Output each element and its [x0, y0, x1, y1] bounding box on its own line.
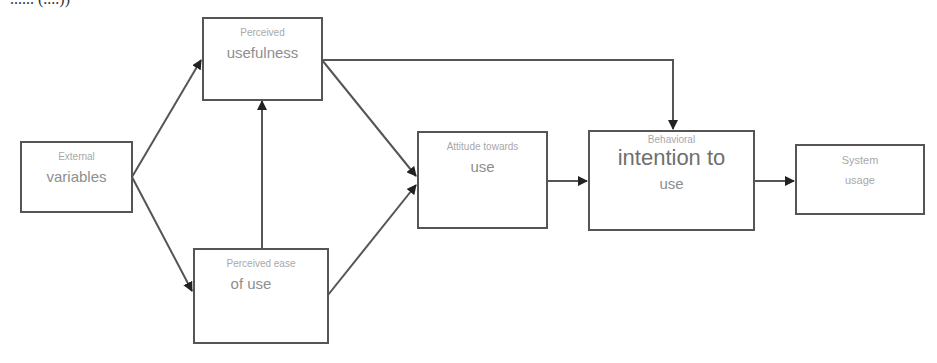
node-label-line1: Attitude towards [419, 141, 546, 152]
edge-pu-atu [322, 60, 416, 176]
node-label-line1: Perceived ease [195, 258, 327, 269]
node-label-line1: System [797, 154, 923, 166]
node-label-line2: of use [195, 275, 307, 292]
node-label-line2: usefulness [204, 44, 321, 61]
edge-external-pu [132, 60, 201, 177]
node-label-line1: External [22, 151, 131, 162]
node-label-line1: Perceived [204, 27, 321, 38]
node-label-line2: variables [22, 168, 131, 185]
node-label-line1: Behavioral [590, 134, 753, 145]
node-system-usage: System usage [795, 144, 925, 215]
node-perceived-ease-of-use: Perceived ease of use [193, 248, 329, 344]
node-external-variables: External variables [20, 141, 133, 213]
edge-pu-bi [322, 60, 673, 129]
node-behavioral-intention: Behavioral intention to use [588, 130, 755, 231]
node-label-line2: use [419, 158, 546, 175]
node-attitude-towards-use: Attitude towards use [417, 131, 548, 229]
edge-peou-atu [328, 185, 416, 295]
node-perceived-usefulness: Perceived usefulness [202, 17, 323, 101]
node-label-line2: usage [797, 174, 923, 186]
edge-external-peou [132, 177, 192, 291]
node-label-line2: intention to [590, 145, 753, 171]
node-label-line3: use [590, 175, 753, 192]
